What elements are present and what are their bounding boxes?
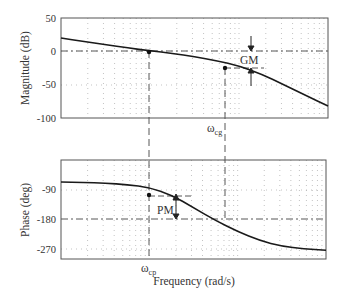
mag-tick-0: 0 bbox=[51, 46, 56, 57]
mag-tick-minus100: -100 bbox=[37, 113, 56, 124]
magnitude-ylabel: Magnitude (dB) bbox=[19, 31, 32, 105]
bode-plot: GM PM 50 0 -50 -100 -90 -180 -270 Magnit… bbox=[0, 0, 348, 304]
phase-tick-minus180: -180 bbox=[37, 214, 56, 225]
gm-label: GM bbox=[240, 54, 259, 66]
frequency-xlabel: Frequency (rad/s) bbox=[153, 275, 235, 288]
omega-cg-label: ωcg bbox=[207, 122, 222, 137]
omega-cp-label: ωcp bbox=[141, 262, 156, 277]
magnitude-curve bbox=[61, 38, 328, 106]
phase-ylabel: Phase (deg) bbox=[19, 183, 32, 237]
arrow-down-icon bbox=[173, 214, 179, 219]
pm-arrows bbox=[173, 194, 179, 219]
phase-tick-minus90: -90 bbox=[42, 184, 56, 195]
arrow-down-icon bbox=[248, 46, 254, 51]
pm-label: PM bbox=[157, 204, 174, 216]
gain-crossover-dot bbox=[147, 50, 151, 54]
phase-axes bbox=[61, 160, 326, 259]
mag-tick-minus50: -50 bbox=[42, 79, 56, 90]
phase-tick-minus270: -270 bbox=[37, 244, 56, 255]
magnitude-axes bbox=[61, 18, 328, 118]
phase-curve bbox=[61, 182, 326, 250]
phase-grid bbox=[61, 160, 326, 259]
phase-at-gain-crossover-dot bbox=[147, 193, 151, 197]
magnitude-grid bbox=[61, 18, 328, 118]
svg-text:ωcp: ωcp bbox=[141, 262, 156, 277]
reference-lines bbox=[61, 51, 328, 259]
mag-tick-50: 50 bbox=[46, 13, 57, 24]
mag-at-phase-crossover-dot bbox=[223, 66, 227, 70]
svg-text:ωcg: ωcg bbox=[207, 122, 222, 137]
